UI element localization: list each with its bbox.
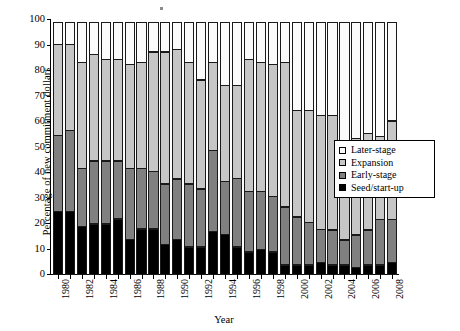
bar-segment	[77, 226, 87, 274]
x-tick-label-slot: 1994	[219, 279, 229, 315]
bar-segment	[244, 22, 254, 60]
bar-column	[89, 19, 99, 274]
bar-segment	[172, 22, 182, 50]
y-tick-label: 30	[5, 192, 51, 203]
bar-column	[256, 19, 266, 274]
y-tick-label: 40	[5, 167, 51, 178]
legend-label: Expansion	[351, 158, 393, 168]
x-tick-label-slot: 1996	[243, 279, 253, 315]
bar-segment	[244, 59, 254, 192]
bar-segment	[220, 85, 230, 182]
bar-segment	[387, 262, 397, 275]
bar-segment	[208, 22, 218, 63]
bar-segment	[387, 219, 397, 262]
bar-segment	[65, 130, 75, 212]
bar-segment	[316, 115, 326, 230]
y-tick-label: 80	[5, 65, 51, 76]
bar-segment	[208, 62, 218, 151]
bar-segment	[136, 168, 146, 229]
bar-segment	[101, 161, 111, 225]
bar-segment	[363, 230, 373, 266]
bar-segment	[172, 49, 182, 179]
bar-segment	[220, 22, 230, 86]
bar-column	[280, 19, 290, 274]
bar-column	[113, 19, 123, 274]
x-tick-label-slot: 2000	[291, 279, 301, 315]
bar-column	[208, 19, 218, 274]
x-tick-label-slot	[255, 279, 265, 315]
y-tick-label: 70	[5, 90, 51, 101]
bar-segment	[113, 161, 123, 220]
bar-segment	[113, 219, 123, 275]
bar-segment	[316, 262, 326, 275]
bar-segment	[256, 191, 266, 250]
bar-segment	[363, 22, 373, 134]
legend-swatch-later	[339, 147, 346, 154]
bar-segment	[148, 22, 158, 53]
bar-segment	[208, 150, 218, 232]
bar-segment	[232, 247, 242, 275]
x-axis-tick-labels: 1980198219841986198819901992199419961998…	[50, 279, 398, 315]
legend-swatch-early	[339, 172, 346, 179]
x-tick-label-slot: 2004	[338, 279, 348, 315]
bar-column	[268, 19, 278, 274]
bar-column	[244, 19, 254, 274]
legend-label: Later-stage	[351, 145, 396, 155]
legend-item-expansion: Expansion	[339, 157, 430, 170]
x-tick-label-slot: 1986	[124, 279, 134, 315]
bar-segment	[220, 234, 230, 275]
bar-column	[196, 19, 206, 274]
bar-segment	[113, 22, 123, 60]
bar-segment	[208, 231, 218, 274]
bar-segment	[268, 22, 278, 65]
bar-segment	[172, 239, 182, 275]
bar-segment	[148, 229, 158, 275]
bar-segment	[101, 22, 111, 60]
bar-segment	[304, 222, 314, 265]
y-tick-label: 10	[5, 243, 51, 254]
bar-segment	[339, 240, 349, 266]
bar-segment	[280, 22, 290, 63]
bar-segment	[77, 62, 87, 169]
bar-segment	[327, 22, 337, 116]
bar-segment	[160, 244, 170, 275]
x-tick-label-slot	[183, 279, 193, 315]
legend-item-early: Early-stage	[339, 169, 430, 182]
bar-segment	[101, 59, 111, 161]
bar-column	[232, 19, 242, 274]
bar-column	[53, 19, 63, 274]
x-tick-label-slot	[159, 279, 169, 315]
legend-item-seed: Seed/start-up	[339, 182, 430, 195]
bar-segment	[172, 179, 182, 240]
bar-segment	[184, 184, 194, 248]
bar-segment	[113, 59, 123, 161]
bar-segment	[53, 22, 63, 45]
bar-segment	[196, 22, 206, 81]
bar-column	[316, 19, 326, 274]
bar-segment	[89, 161, 99, 225]
bar-segment	[256, 22, 266, 63]
bar-segment	[148, 171, 158, 230]
bar-segment	[184, 247, 194, 275]
bar-segment	[304, 110, 314, 222]
y-tick-label: 90	[5, 39, 51, 50]
x-tick-label-slot: 1998	[267, 279, 277, 315]
bar-column	[172, 19, 182, 274]
bar-segment	[256, 249, 266, 275]
x-tick-label-slot	[88, 279, 98, 315]
bar-segment	[351, 22, 361, 139]
bar-column	[184, 19, 194, 274]
bar-segment	[292, 22, 302, 111]
bar-segment	[268, 196, 278, 252]
x-tick-label-slot	[326, 279, 336, 315]
bar-segment	[196, 80, 206, 190]
x-tick-label-slot: 1984	[100, 279, 110, 315]
bar-segment	[184, 62, 194, 184]
bar-segment	[184, 22, 194, 63]
legend-label: Early-stage	[351, 170, 397, 180]
bar-segment	[89, 54, 99, 161]
bar-segment	[232, 178, 242, 247]
x-tick-label-slot	[207, 279, 217, 315]
legend-label: Seed/start-up	[351, 183, 404, 193]
bar-segment	[65, 22, 75, 45]
